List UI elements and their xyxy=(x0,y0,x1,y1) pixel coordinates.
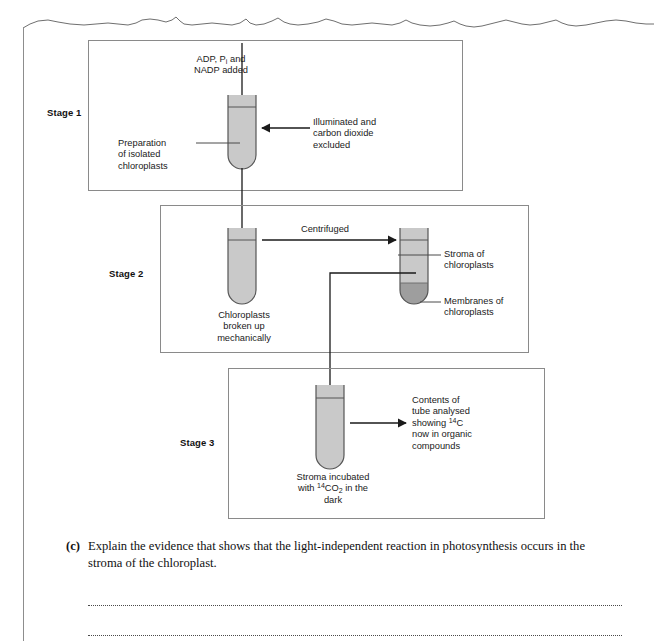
stage-2-left-test-tube xyxy=(228,228,256,304)
question-marker: (c) xyxy=(66,538,88,555)
stage-2-process-label: Centrifuged xyxy=(287,224,363,235)
stage-3-label: Stage 3 xyxy=(180,437,215,448)
stage-2-label: Stage 2 xyxy=(109,268,144,279)
answer-line-2[interactable] xyxy=(88,634,622,636)
question-c: (c) Explain the evidence that shows that… xyxy=(66,538,622,571)
stage-2-stroma-label: Stroma of chloroplasts xyxy=(444,249,530,272)
stage-2-right-test-tube xyxy=(400,228,428,304)
stage-1-label: Stage 1 xyxy=(47,107,82,118)
question-text: Explain the evidence that shows that the… xyxy=(88,538,622,571)
stage-3-result-label: Contents oftube analysedshowing 14Cnow i… xyxy=(412,395,512,452)
stage-2-membranes-label: Membranes of chloroplasts xyxy=(444,296,534,319)
exam-page: Stage 1 Stage 2 Stage 3 ADP, Pi andNADP … xyxy=(0,0,654,641)
photosynthesis-experiment-diagram xyxy=(0,0,654,530)
answer-line-1[interactable] xyxy=(88,604,622,606)
stage-3-test-tube xyxy=(316,385,344,469)
stage-2-left-tube-label: Chloroplasts broken up mechanically xyxy=(196,310,292,344)
stage-1-tube-label: Preparation of isolated chloroplasts xyxy=(118,138,196,172)
stage-1-condition-label: Illuminated and carbon dioxide excluded xyxy=(313,117,423,151)
stage-1-input-label: ADP, Pi andNADP added xyxy=(173,54,269,77)
stage-1-test-tube xyxy=(228,95,256,169)
stage-3-tube-label: Stroma incubatedwith 14CO2 in thedark xyxy=(274,472,392,506)
